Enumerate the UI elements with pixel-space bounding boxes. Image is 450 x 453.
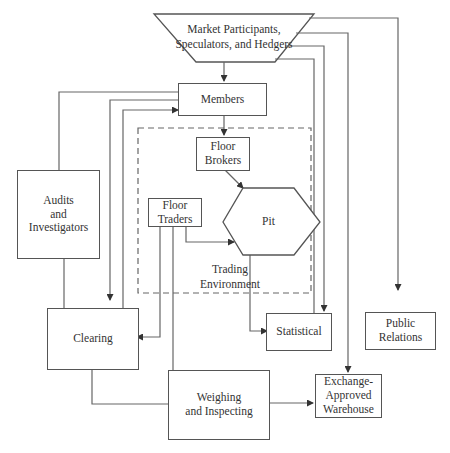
audits-node[interactable]: Audits and Investigators <box>17 170 100 259</box>
warehouse-label: Exchange- Approved Warehouse <box>323 375 374 416</box>
clearing-label: Clearing <box>73 332 113 346</box>
trading-environment-label: Trading Environment <box>180 262 280 292</box>
statistical-label: Statistical <box>276 325 321 339</box>
members-node[interactable]: Members <box>178 83 267 116</box>
statistical-node[interactable]: Statistical <box>266 313 332 351</box>
weighing-node[interactable]: Weighing and Inspecting <box>168 370 270 440</box>
weighing-label: Weighing and Inspecting <box>185 391 252 419</box>
clearing-node[interactable]: Clearing <box>47 308 139 370</box>
warehouse-node[interactable]: Exchange- Approved Warehouse <box>315 374 382 418</box>
audits-label: Audits and Investigators <box>29 194 88 235</box>
pit-label: Pit <box>243 214 294 229</box>
members-label: Members <box>201 93 244 107</box>
floor-traders-node[interactable]: Floor Traders <box>148 198 202 227</box>
public-relations-node[interactable]: Public Relations <box>365 312 436 350</box>
market-participants-label: Market Participants, Speculators, and He… <box>154 22 314 52</box>
public-relations-label: Public Relations <box>379 317 422 345</box>
floor-brokers-label: Floor Brokers <box>205 140 241 168</box>
floor-brokers-node[interactable]: Floor Brokers <box>196 137 250 171</box>
floor-traders-label: Floor Traders <box>158 199 193 227</box>
